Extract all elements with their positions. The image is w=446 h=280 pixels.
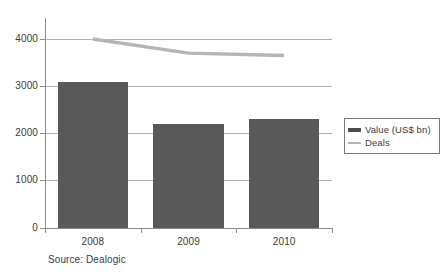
chart-legend: Value (US$ bn) Deals [344,118,440,154]
y-axis-label-wrap-0: 0 [0,223,38,233]
y-axis-label-wrap-3000: 3000 [0,81,38,91]
x-axis-label-2010: 2010 [254,236,314,248]
x-tick-3 [332,228,333,233]
x-tick-0 [45,228,46,233]
y-axis-label-1000: 1000 [4,175,38,185]
x-tick-1 [141,228,142,233]
y-axis-label-4000: 4000 [4,34,38,44]
x-axis-label-2009: 2009 [159,236,219,248]
thick-bar-swatch-icon [348,128,361,132]
x-tick-2 [236,228,237,233]
y-axis-label-wrap-1000: 1000 [0,175,38,185]
legend-item-deals: Deals [348,136,435,149]
line-series-deals [45,18,332,233]
legend-label-deals: Deals [365,137,390,148]
chart-container: 01000200030004000 200820092010 Value (US… [0,0,446,280]
y-axis-label-wrap-4000: 4000 [0,34,38,44]
x-axis-label-2008: 2008 [63,236,123,248]
legend-label-value: Value (US$ bn) [365,124,431,135]
source-note: Source: Dealogic [48,254,126,266]
y-axis-label-wrap-2000: 2000 [0,128,38,138]
y-axis-label-0: 0 [4,223,38,233]
y-axis-label-3000: 3000 [4,81,38,91]
y-axis-label-2000: 2000 [4,128,38,138]
legend-item-value: Value (US$ bn) [348,123,435,136]
deals-line-path [93,39,284,56]
thin-line-swatch-icon [348,142,361,144]
